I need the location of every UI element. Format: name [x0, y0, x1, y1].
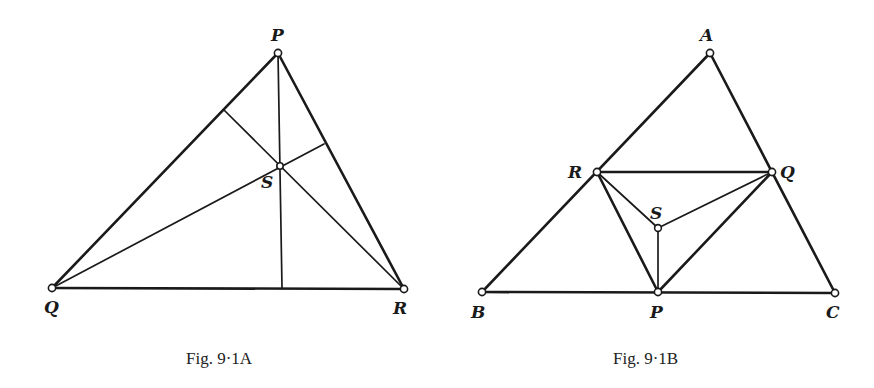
caption-figure-9-1b: Fig. 9·1B: [613, 349, 678, 369]
altitude-from-p: [278, 53, 282, 288]
point-q: [768, 168, 775, 175]
geometry-figures: P Q R S A R Q S B P C: [0, 0, 874, 388]
label-s: S: [650, 203, 662, 223]
label-r: R: [567, 162, 582, 182]
vertex-c: [831, 289, 838, 296]
segment-rs: [597, 172, 658, 228]
orthocenter-s: [277, 163, 283, 169]
vertex-q: [48, 284, 55, 291]
segment-rp: [597, 172, 658, 292]
figure-9-1b: A R Q S B P C: [470, 25, 840, 322]
label-a: A: [698, 25, 713, 45]
side-pr: [278, 53, 404, 289]
vertex-a: [706, 49, 713, 56]
label-p: P: [649, 302, 664, 322]
point-s: [655, 225, 662, 232]
caption-figure-9-1a: Fig. 9·1A: [186, 349, 252, 369]
label-c: C: [826, 302, 840, 322]
label-s: S: [261, 172, 273, 192]
label-q: Q: [44, 297, 59, 317]
altitude-from-r: [224, 110, 404, 289]
vertex-r: [400, 285, 407, 292]
segment-qs: [658, 172, 772, 228]
point-p: [654, 288, 661, 295]
point-r: [593, 168, 600, 175]
side-pq: [52, 53, 278, 288]
vertex-b: [478, 288, 485, 295]
label-b: B: [470, 302, 485, 322]
vertex-p: [274, 49, 281, 56]
label-p: P: [270, 25, 285, 45]
label-q: Q: [780, 162, 795, 182]
side-qr: [52, 288, 404, 289]
figure-9-1a: P Q R S: [44, 25, 408, 318]
label-r: R: [392, 298, 407, 318]
segment-qp: [658, 172, 772, 292]
